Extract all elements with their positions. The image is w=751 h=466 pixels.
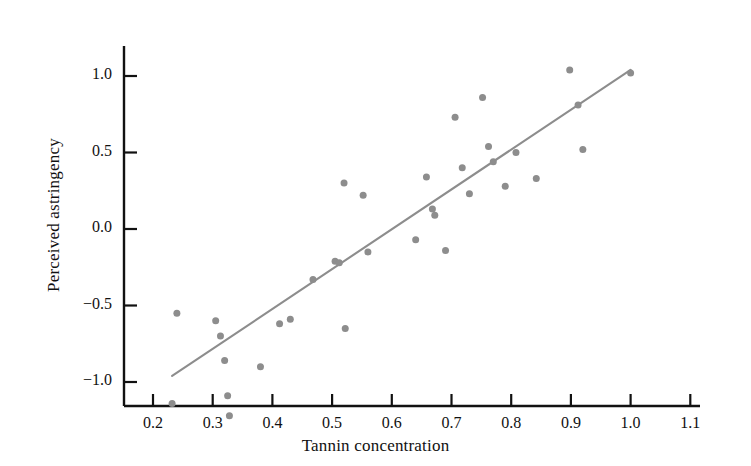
data-point xyxy=(221,357,228,364)
y-axis-title: Perceived astringency xyxy=(44,65,64,365)
data-point xyxy=(442,247,449,254)
data-point xyxy=(287,316,294,323)
data-point xyxy=(485,143,492,150)
data-point xyxy=(360,192,367,199)
data-point xyxy=(452,114,459,121)
regression-line xyxy=(172,70,630,376)
x-tick-label: 0.7 xyxy=(426,414,478,432)
data-point xyxy=(579,146,586,153)
data-point xyxy=(479,94,486,101)
x-tick-label: 0.3 xyxy=(187,414,239,432)
x-tick-label: 1.1 xyxy=(664,414,716,432)
data-points-group xyxy=(169,66,634,419)
data-point xyxy=(342,325,349,332)
data-point xyxy=(490,158,497,165)
data-point xyxy=(575,102,582,109)
data-point xyxy=(336,259,343,266)
axes-group xyxy=(124,46,700,406)
data-point xyxy=(627,69,634,76)
x-tick-label: 0.9 xyxy=(545,414,597,432)
x-tick-label: 1.0 xyxy=(605,414,657,432)
data-point xyxy=(169,400,176,407)
y-tick-label: −1.0 xyxy=(60,371,112,389)
x-tick-label: 0.4 xyxy=(246,414,298,432)
y-tick-label: 0.5 xyxy=(60,142,112,160)
data-point xyxy=(341,180,348,187)
data-point xyxy=(212,317,219,324)
data-point xyxy=(276,320,283,327)
y-tick-label: −0.5 xyxy=(60,295,112,313)
data-point xyxy=(217,333,224,340)
data-point xyxy=(257,363,264,370)
data-point xyxy=(309,276,316,283)
y-tick-label: 1.0 xyxy=(60,65,112,83)
data-point xyxy=(566,66,573,73)
data-point xyxy=(502,183,509,190)
x-axis-title: Tannin concentration xyxy=(0,436,751,456)
data-point xyxy=(459,164,466,171)
data-point xyxy=(431,212,438,219)
data-point xyxy=(224,392,231,399)
scatter-plot-figure: Tannin concentration Perceived astringen… xyxy=(0,0,751,466)
data-point xyxy=(533,175,540,182)
data-point xyxy=(512,149,519,156)
data-point xyxy=(412,236,419,243)
x-tick-label: 0.2 xyxy=(127,414,179,432)
chart-canvas xyxy=(0,0,751,466)
data-point xyxy=(364,248,371,255)
data-point xyxy=(466,190,473,197)
x-tick-label: 0.6 xyxy=(366,414,418,432)
y-tick-label: 0.0 xyxy=(60,218,112,236)
data-point xyxy=(173,310,180,317)
data-point xyxy=(429,206,436,213)
data-point xyxy=(423,173,430,180)
x-tick-label: 0.8 xyxy=(485,414,537,432)
x-tick-label: 0.5 xyxy=(306,414,358,432)
